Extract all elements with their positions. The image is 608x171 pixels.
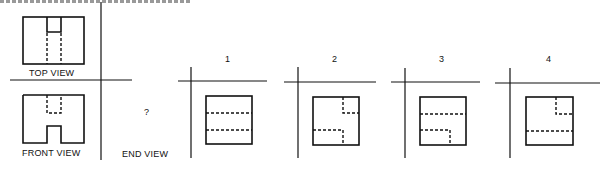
option-2[interactable]: 2 — [284, 54, 376, 158]
option-3[interactable]: 3 — [391, 54, 480, 158]
orthographic-projection-figure: TOP VIEW FRONT VIEW ? END VIEW 1 2 — [0, 0, 608, 171]
top-view-drawing — [23, 17, 84, 64]
option-2-number: 2 — [332, 54, 337, 64]
option-1[interactable]: 1 — [178, 54, 267, 158]
figure-drawing: TOP VIEW FRONT VIEW ? END VIEW 1 2 — [0, 0, 608, 171]
option-4-number: 4 — [546, 54, 551, 64]
option-3-number: 3 — [439, 54, 444, 64]
end-view-question-mark: ? — [144, 107, 149, 117]
option-1-number: 1 — [225, 54, 230, 64]
end-view-label: END VIEW — [122, 149, 168, 159]
front-view-label: FRONT VIEW — [22, 148, 81, 158]
option-4[interactable]: 4 — [495, 54, 600, 158]
given-views-axes — [10, 2, 132, 160]
front-view-drawing — [23, 95, 84, 143]
top-view-label: TOP VIEW — [29, 68, 75, 78]
